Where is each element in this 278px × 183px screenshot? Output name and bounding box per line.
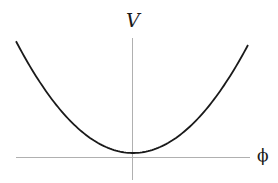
v-axis-label: V bbox=[126, 9, 142, 31]
phi-axis-label: ϕ bbox=[257, 145, 269, 165]
potential-diagram: V ϕ bbox=[0, 0, 278, 183]
